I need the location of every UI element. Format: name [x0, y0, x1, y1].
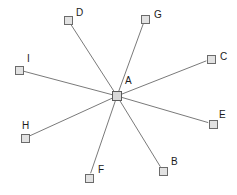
- node-label-i: I: [27, 54, 30, 64]
- node-i[interactable]: [15, 66, 24, 75]
- node-label-b: B: [171, 157, 178, 167]
- edge-a-d: [71, 24, 115, 92]
- node-c[interactable]: [207, 55, 216, 64]
- node-g[interactable]: [141, 15, 150, 24]
- node-f[interactable]: [85, 174, 94, 183]
- node-label-e: E: [219, 110, 226, 120]
- edge-a-h: [30, 98, 113, 136]
- node-label-c: C: [220, 52, 227, 62]
- node-label-d: D: [76, 8, 83, 18]
- node-label-g: G: [154, 10, 162, 20]
- edge-a-i: [24, 71, 112, 94]
- node-label-h: H: [22, 121, 29, 131]
- node-d[interactable]: [64, 16, 73, 25]
- node-e[interactable]: [209, 120, 218, 129]
- node-b[interactable]: [159, 167, 168, 176]
- node-a[interactable]: [112, 91, 122, 101]
- diagram-canvas: BCDEFGHIA: [0, 0, 237, 195]
- node-label-a: A: [125, 76, 132, 86]
- node-h[interactable]: [21, 134, 30, 143]
- edge-a-c: [122, 61, 207, 94]
- edge-a-b: [120, 100, 161, 166]
- node-label-f: F: [98, 165, 104, 175]
- edge-a-f: [91, 101, 116, 174]
- edge-a-e: [122, 97, 208, 122]
